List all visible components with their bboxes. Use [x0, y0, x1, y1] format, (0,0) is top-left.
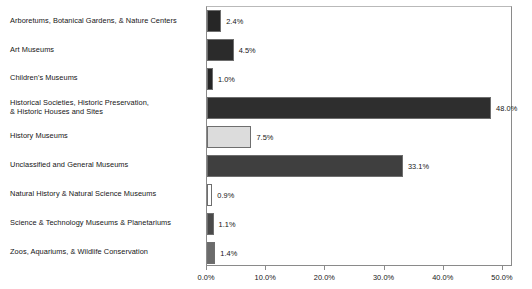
category-label: Art Museums: [10, 35, 196, 64]
bar-value-label: 0.9%: [217, 190, 234, 199]
bar-value-label: 33.1%: [408, 161, 429, 170]
bar: [207, 184, 212, 206]
bar-row: 1.0%: [207, 68, 511, 90]
x-axis-tick-mark: [443, 266, 444, 270]
category-label: Arboretums, Botanical Gardens, & Nature …: [10, 6, 196, 35]
category-label-line: Art Museums: [10, 45, 196, 55]
bar-value-label: 1.4%: [220, 248, 237, 257]
bar: [207, 155, 403, 177]
category-axis-labels: Arboretums, Botanical Gardens, & Nature …: [0, 6, 198, 266]
bar-row: 2.4%: [207, 10, 511, 32]
category-label: Natural History & Natural Science Museum…: [10, 179, 196, 208]
bar: [207, 10, 221, 32]
bar-value-label: 48.0%: [496, 104, 517, 113]
bar-value-label: 1.1%: [219, 219, 236, 228]
bar-row: 1.4%: [207, 242, 511, 264]
bar-value-label: 4.5%: [239, 46, 256, 55]
category-label-line: History Museums: [10, 131, 196, 141]
bar-row: 4.5%: [207, 39, 511, 61]
bar: [207, 97, 491, 119]
x-axis-tick-label: 10.0%: [255, 273, 276, 282]
category-label-line: Natural History & Natural Science Museum…: [10, 189, 196, 199]
x-axis-tick-mark: [502, 266, 503, 270]
x-axis-tick-mark: [265, 266, 266, 270]
bar-row: 7.5%: [207, 126, 511, 148]
x-axis-tick-label: 20.0%: [314, 273, 335, 282]
bar-row: 0.9%: [207, 184, 511, 206]
category-label: Zoos, Aquariums, & Wildlife Conservation: [10, 237, 196, 266]
bar-row: 48.0%: [207, 97, 511, 119]
bar: [207, 126, 251, 148]
bar-row: 1.1%: [207, 213, 511, 235]
category-label-line: Zoos, Aquariums, & Wildlife Conservation: [10, 247, 196, 257]
bar-value-label: 7.5%: [256, 133, 273, 142]
x-axis-tick-label: 40.0%: [432, 273, 453, 282]
category-label: Science & Technology Museums & Planetari…: [10, 208, 196, 237]
x-axis-tick-label: 0.0%: [197, 273, 214, 282]
x-axis-tick-label: 30.0%: [373, 273, 394, 282]
bar: [207, 242, 215, 264]
horizontal-bar-chart: Arboretums, Botanical Gardens, & Nature …: [0, 0, 532, 289]
bar-row: 33.1%: [207, 155, 511, 177]
x-axis: 0.0%10.0%20.0%30.0%40.0%50.0%: [206, 266, 512, 289]
x-axis-tick-mark: [384, 266, 385, 270]
category-label-line: Unclassified and General Museums: [10, 160, 196, 170]
category-label-line: & Historic Houses and Sites: [10, 107, 196, 117]
bar: [207, 68, 213, 90]
bar-value-label: 2.4%: [226, 17, 243, 26]
bar: [207, 39, 234, 61]
category-label: Historical Societies, Historic Preservat…: [10, 93, 196, 122]
bar: [207, 213, 214, 235]
category-label-line: Historical Societies, Historic Preservat…: [10, 98, 196, 108]
category-label: Children's Museums: [10, 64, 196, 93]
x-axis-tick-mark: [206, 266, 207, 270]
category-label-line: Arboretums, Botanical Gardens, & Nature …: [10, 16, 196, 26]
bar-value-label: 1.0%: [218, 75, 235, 84]
category-label-line: Science & Technology Museums & Planetari…: [10, 218, 196, 228]
x-axis-tick-mark: [324, 266, 325, 270]
category-label-line: Children's Museums: [10, 73, 196, 83]
category-label: History Museums: [10, 122, 196, 151]
x-axis-tick-label: 50.0%: [491, 273, 512, 282]
category-label: Unclassified and General Museums: [10, 150, 196, 179]
plot-area: 2.4%4.5%1.0%48.0%7.5%33.1%0.9%1.1%1.4%: [206, 6, 512, 266]
